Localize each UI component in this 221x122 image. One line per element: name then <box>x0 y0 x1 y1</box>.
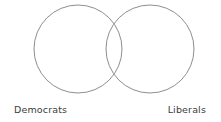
venn-label-liberals: Liberals <box>168 104 206 116</box>
venn-diagram: Democrats Liberals <box>0 0 221 122</box>
venn-label-democrats: Democrats <box>14 104 67 116</box>
